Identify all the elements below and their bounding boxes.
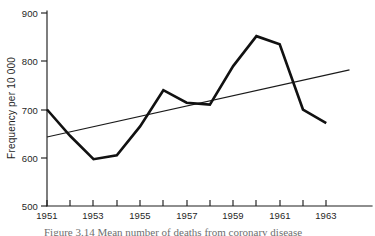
frequency-line-series — [47, 36, 326, 159]
x-tick-labels: 1951 1953 1955 1957 1959 1961 1963 — [36, 210, 337, 221]
y-tick-label-600: 600 — [22, 153, 38, 164]
y-tick-label-700: 700 — [22, 105, 38, 116]
x-tick-label-1963: 1963 — [315, 210, 337, 221]
line-chart: 900 800 700 600 500 1951 1953 1955 — [0, 0, 375, 236]
y-tick-label-800: 800 — [22, 56, 38, 67]
x-tick-label-1955: 1955 — [129, 210, 151, 221]
figure-caption: Figure 3.14 Mean number of deaths from c… — [44, 227, 370, 236]
x-tick-marks — [47, 200, 326, 206]
y-tick-label-900: 900 — [22, 8, 38, 19]
x-tick-label-1951: 1951 — [36, 210, 58, 221]
y-tick-marks — [41, 13, 47, 206]
y-tick-labels: 900 800 700 600 500 — [22, 8, 38, 212]
x-tick-label-1953: 1953 — [82, 210, 104, 221]
x-tick-label-1961: 1961 — [269, 210, 291, 221]
y-axis-title: Frequency per 10 000 — [6, 57, 17, 159]
figure-root: 900 800 700 600 500 1951 1953 1955 — [0, 0, 375, 236]
x-tick-label-1957: 1957 — [176, 210, 198, 221]
x-tick-label-1959: 1959 — [222, 210, 244, 221]
